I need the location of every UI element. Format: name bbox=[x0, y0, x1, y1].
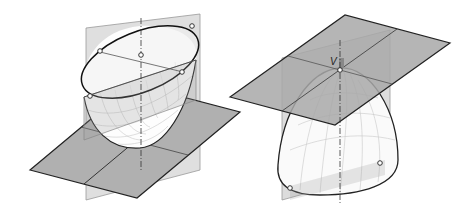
left-paraboloid-figure bbox=[30, 11, 240, 200]
diagram-canvas bbox=[0, 0, 470, 213]
right-paraboloid-figure bbox=[230, 15, 450, 205]
vertex-label: V bbox=[330, 56, 337, 67]
